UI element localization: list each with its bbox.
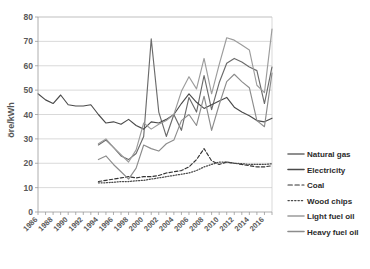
legend-label-heavy-fuel-oil: Heavy fuel oil [307,228,359,237]
x-tick-label: 2014 [233,214,252,233]
series-line-light-fuel-oil [98,29,272,162]
legend-label-electricity: Electricity [307,166,346,175]
x-tick-label: 1992 [67,215,85,233]
x-tick-label: 1990 [51,215,69,233]
x-tick-label: 2004 [157,214,176,233]
line-chart: 01020304050607080 1986198819901992199419… [0,0,370,269]
y-axis-label: öre/kWh [6,102,16,138]
y-tick-label: 20 [24,158,34,168]
y-tick-label: 30 [24,134,34,144]
y-tick-label: 60 [24,61,34,71]
x-axis-ticks: 1986198819901992199419961998200020022004… [21,212,272,233]
y-tick-label: 80 [24,12,34,22]
x-tick-label: 1996 [97,215,115,233]
chart-container: 01020304050607080 1986198819901992199419… [0,0,370,269]
chart-legend: Natural gasElectricityCoalWood chipsLigh… [288,150,359,237]
y-tick-label: 50 [24,85,34,95]
x-tick-label: 1994 [82,214,101,233]
grid-lines [38,17,272,212]
x-tick-label: 2012 [218,215,236,233]
series-lines [38,29,272,183]
legend-label-coal: Coal [307,181,324,190]
x-tick-label: 2006 [172,215,190,233]
y-axis-ticks: 01020304050607080 [24,12,38,217]
x-tick-label: 2002 [142,215,160,233]
x-tick-label: 2010 [202,215,220,233]
y-tick-label: 40 [24,110,34,120]
y-tick-label: 10 [24,183,34,193]
x-tick-label: 2016 [248,215,266,233]
y-tick-label: 70 [24,36,34,46]
legend-label-wood-chips: Wood chips [307,197,353,206]
x-tick-label: 1986 [21,215,39,233]
legend-label-light-fuel-oil: Light fuel oil [307,212,355,221]
x-tick-label: 1998 [112,215,130,233]
series-line-coal [98,149,272,182]
x-tick-label: 2008 [187,215,205,233]
x-tick-label: 2000 [127,215,145,233]
legend-label-natural-gas: Natural gas [307,150,351,159]
x-tick-label: 1988 [36,215,54,233]
series-line-electricity [38,94,272,129]
